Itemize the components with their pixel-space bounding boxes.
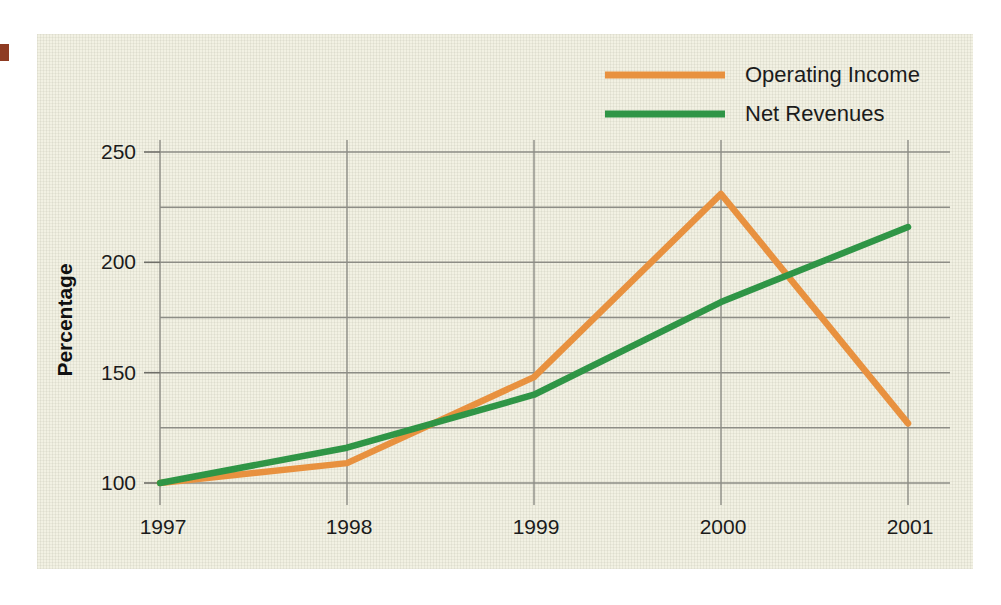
line-chart-figure: 250 200 150 100 Percentage 1997 1998 199… [0, 0, 1001, 605]
y-axis-title: Percentage [53, 263, 76, 376]
y-tick-label-250: 250 [101, 140, 136, 163]
vertical-gridlines [160, 140, 908, 505]
y-axis-tick-marks [144, 152, 160, 483]
horizontal-gridlines [160, 152, 950, 483]
y-tick-label-150: 150 [101, 361, 136, 384]
legend-label-operating-income: Operating Income [745, 62, 920, 87]
chart-legend: Operating Income Net Revenues [605, 62, 920, 126]
y-tick-label-200: 200 [101, 250, 136, 273]
y-tick-label-100: 100 [101, 471, 136, 494]
x-tick-label-2001: 2001 [887, 515, 934, 538]
legend-label-net-revenues: Net Revenues [745, 101, 884, 126]
chart-plot-svg: 250 200 150 100 Percentage 1997 1998 199… [0, 0, 1001, 605]
x-tick-label-1997: 1997 [140, 515, 187, 538]
x-tick-label-1999: 1999 [513, 515, 560, 538]
x-tick-label-2000: 2000 [700, 515, 747, 538]
x-tick-label-1998: 1998 [326, 515, 373, 538]
